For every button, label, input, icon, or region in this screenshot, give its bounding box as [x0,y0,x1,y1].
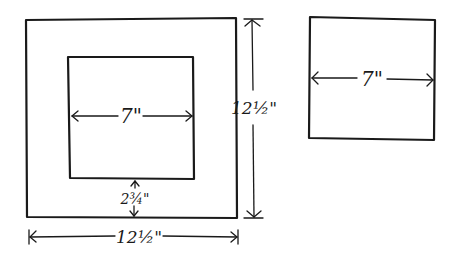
inner-width-label: 7" [120,104,142,128]
border-width-label: 2¾" [120,191,150,207]
outer-height-label: 12½" [231,98,277,118]
outer-width-dimension: 12½" [29,227,238,247]
dimension-line [252,20,253,90]
dimension-line [387,79,433,80]
dimension-line [253,125,254,217]
right-figure: 7" [309,17,435,140]
inner-width-dimension: 7" [72,104,192,128]
border-dimension: 2¾" [120,181,150,216]
left-figure: 7" 2¾" 12½" 12½" [26,18,277,247]
diagram-canvas: 7" 2¾" 12½" 12½" [0,0,460,278]
outer-width-label: 12½" [116,227,162,247]
dimension-line [163,236,237,237]
square-width-label: 7" [361,67,383,91]
square-width-dimension: 7" [312,67,433,91]
dimension-line [30,236,115,237]
